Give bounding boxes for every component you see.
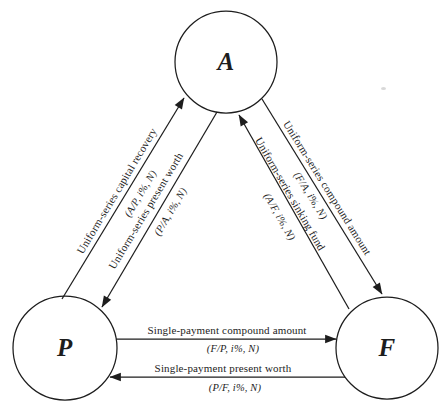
print-speck	[381, 87, 386, 90]
node-label-p: P	[57, 335, 73, 360]
node-label-a: A	[217, 49, 234, 74]
edge-formula-single-payment-compound-amount: (F/P, i%, N)	[207, 344, 259, 355]
edge-label-single-payment-present-worth: Single-payment present worth	[155, 363, 292, 374]
edge-formula-single-payment-present-worth: (P/F, i%, N)	[209, 383, 261, 394]
factor-relationship-diagram: A P F Uniform-series capital recovery (A…	[0, 0, 446, 409]
node-label-f: F	[378, 335, 395, 360]
edge-label-single-payment-compound-amount: Single-payment compound amount	[147, 325, 306, 336]
edge-line-compound-amount	[262, 99, 382, 294]
edge-line-present-worth	[102, 112, 217, 307]
